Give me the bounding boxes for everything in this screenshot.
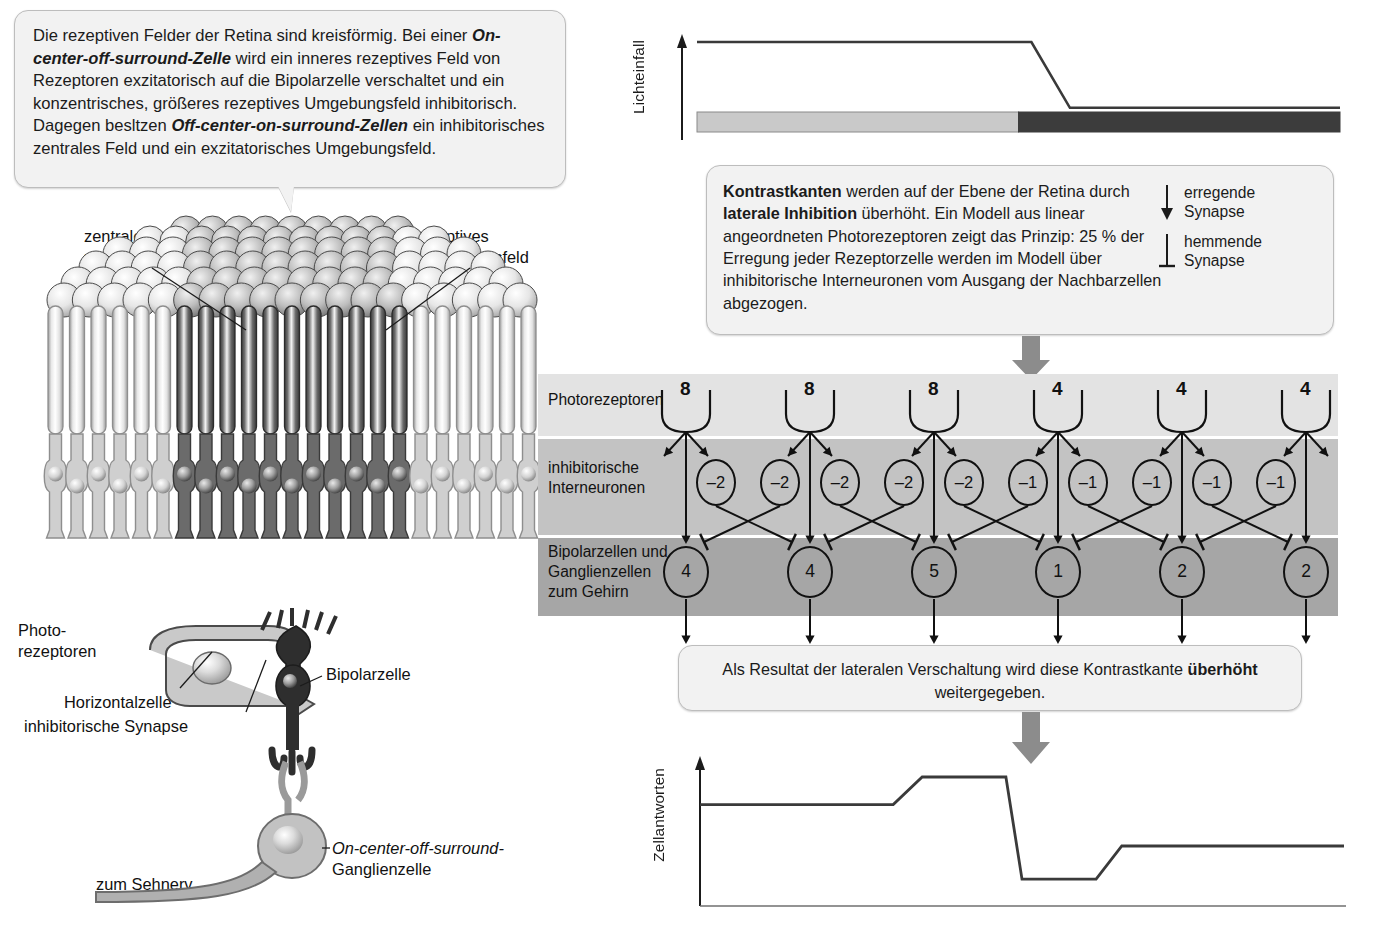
interneuron-node: –2 xyxy=(884,459,924,506)
photoreceptor-value: 8 xyxy=(928,378,939,400)
ganglion-node: 2 xyxy=(1159,546,1205,598)
ganglion-node: 5 xyxy=(911,546,957,598)
interneuron-node: –1 xyxy=(1132,459,1172,506)
legend-row-inhibitory: hemmende Synapse xyxy=(1159,231,1319,271)
label-horizontal-cell: Horizontalzelle xyxy=(64,692,172,713)
arrow-down-filled-icon xyxy=(1159,182,1175,222)
legend-label-excitatory: erregende Synapse xyxy=(1184,183,1255,222)
label-ganglion-cell: On-center-off-surround-Ganglienzelle xyxy=(332,838,504,880)
label-inhibitory-synapse: inhibitorische Synapse xyxy=(24,716,188,737)
interneuron-node: –1 xyxy=(1068,459,1108,506)
label-ganglion-rest: Ganglienzelle xyxy=(332,860,431,878)
layer-label-photoreceptors: Photorezeptoren xyxy=(548,390,663,410)
layer-label-interneurons: inhibitorische Interneuronen xyxy=(548,458,645,498)
interneuron-node: –2 xyxy=(820,459,860,506)
axis-label-lichteinfall: Lichteinfall xyxy=(630,40,648,114)
axis-label-zellantworten: Zellantworten xyxy=(650,768,668,862)
interneuron-node: –2 xyxy=(944,459,984,506)
synapse-legend: erregende Synapse hemmende Synapse xyxy=(1159,182,1319,280)
legend-excitatory-line1: erregende xyxy=(1184,184,1255,201)
photoreceptor-value: 4 xyxy=(1300,378,1311,400)
label-bipolar-cell: Bipolarzelle xyxy=(326,664,411,685)
receptive-fields-callout: Die rezeptiven Felder der Retina sind kr… xyxy=(14,10,566,188)
label-central-receptive-field: zentrales rezeptives Feld xyxy=(84,226,195,269)
legend-excitatory-line2: Synapse xyxy=(1184,203,1245,220)
photoreceptor-value: 8 xyxy=(804,378,815,400)
callout-tail-icon xyxy=(278,186,294,212)
legend-row-excitatory: erregende Synapse xyxy=(1159,182,1319,222)
legend-inhibitory-line2: Synapse xyxy=(1184,252,1245,269)
legend-label-inhibitory: hemmende Synapse xyxy=(1184,232,1262,271)
interneuron-node: –2 xyxy=(696,459,736,506)
t-bar-icon xyxy=(1159,231,1175,271)
contrast-edges-text: Kontrastkanten werden auf der Ebene der … xyxy=(723,180,1163,314)
legend-inhibitory-line1: hemmende xyxy=(1184,233,1262,250)
photoreceptor-value: 4 xyxy=(1052,378,1063,400)
receptive-fields-text: Die rezeptiven Felder der Retina sind kr… xyxy=(33,25,547,160)
label-optic-nerve: zum Sehnerv xyxy=(96,874,193,895)
label-photoreceptors: Photo- rezeptoren xyxy=(18,620,96,663)
label-surround-receptive-field: rezeptives Umgebungsfeld xyxy=(414,226,529,269)
ganglion-node: 4 xyxy=(787,546,833,598)
ganglion-node: 1 xyxy=(1035,546,1081,598)
layer-label-ganglion: Bipolarzellen und Ganglienzellen zum Geh… xyxy=(548,542,668,602)
ganglion-node: 2 xyxy=(1283,546,1329,598)
interneuron-node: –2 xyxy=(760,459,800,506)
interneuron-node: –1 xyxy=(1192,459,1232,506)
ganglion-node: 4 xyxy=(663,546,709,598)
interneuron-node: –1 xyxy=(1256,459,1296,506)
label-ganglion-italic: On-center-off-surround- xyxy=(332,839,504,857)
photoreceptor-value: 4 xyxy=(1176,378,1187,400)
photoreceptor-value: 8 xyxy=(680,378,691,400)
result-text: Als Resultat der lateralen Verschaltung … xyxy=(695,658,1285,703)
result-callout: Als Resultat der lateralen Verschaltung … xyxy=(678,645,1302,711)
interneuron-node: –1 xyxy=(1008,459,1048,506)
contrast-edges-callout: Kontrastkanten werden auf der Ebene der … xyxy=(706,165,1334,335)
